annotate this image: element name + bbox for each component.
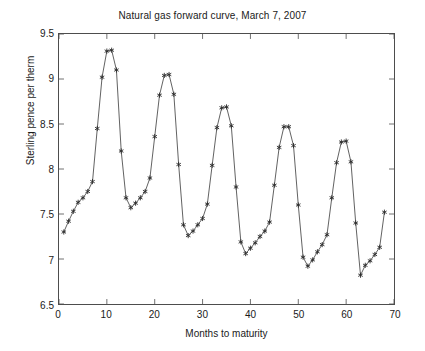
- y-tick-label: 9.5: [20, 28, 54, 39]
- chart-title: Natural gas forward curve, March 7, 2007: [0, 10, 425, 21]
- data-point-marker: [100, 75, 104, 80]
- data-point-marker: [234, 184, 238, 189]
- x-axis-tick-labels: 010203040506070: [58, 309, 395, 325]
- data-point-marker: [349, 159, 353, 164]
- y-tick-label: 7: [20, 254, 54, 265]
- data-point-marker: [71, 209, 75, 214]
- data-point-marker: [66, 219, 70, 224]
- x-tick-label: 60: [332, 309, 362, 320]
- x-tick-label: 0: [43, 309, 73, 320]
- data-point-marker: [229, 123, 233, 128]
- data-point-marker: [277, 145, 281, 150]
- y-tick-label: 8: [20, 164, 54, 175]
- y-tick-label: 7.5: [20, 209, 54, 220]
- data-point-marker: [330, 195, 334, 200]
- x-tick-label: 50: [284, 309, 314, 320]
- x-tick-label: 70: [380, 309, 410, 320]
- data-point-marker: [152, 134, 156, 139]
- x-tick-label: 20: [139, 309, 169, 320]
- y-tick-label: 8.5: [20, 118, 54, 129]
- x-tick-label: 10: [91, 309, 121, 320]
- data-point-marker: [157, 93, 161, 98]
- data-point-marker: [272, 183, 276, 188]
- x-tick-label: 30: [187, 309, 217, 320]
- x-tick-label: 40: [236, 309, 266, 320]
- data-point-marker: [114, 67, 118, 72]
- data-point-marker: [119, 148, 123, 153]
- plot-area: [58, 33, 395, 305]
- data-point-marker: [215, 125, 219, 130]
- data-point-marker: [172, 92, 176, 97]
- data-point-marker: [181, 222, 185, 227]
- data-point-marker: [291, 143, 295, 148]
- data-point-marker: [301, 255, 305, 260]
- data-point-marker: [358, 273, 362, 278]
- data-point-marker: [62, 229, 66, 234]
- axis-tick-marks: [59, 34, 394, 304]
- data-point-marker: [382, 210, 386, 215]
- data-point-marker: [124, 195, 128, 200]
- data-point-markers: [62, 48, 387, 278]
- data-series-svg: [59, 34, 394, 304]
- data-point-marker: [325, 232, 329, 237]
- data-point-marker: [334, 160, 338, 165]
- y-axis-tick-labels: 6.577.588.599.5: [18, 33, 54, 305]
- x-axis-label: Months to maturity: [58, 328, 395, 339]
- data-point-marker: [148, 175, 152, 180]
- y-tick-label: 9: [20, 73, 54, 84]
- data-point-marker: [296, 202, 300, 207]
- data-point-marker: [176, 162, 180, 167]
- data-point-marker: [95, 126, 99, 131]
- data-point-marker: [239, 239, 243, 244]
- data-point-marker: [267, 220, 271, 225]
- data-point-marker: [205, 202, 209, 207]
- data-point-marker: [353, 220, 357, 225]
- data-point-marker: [210, 163, 214, 168]
- chart-figure: Natural gas forward curve, March 7, 2007…: [0, 0, 425, 351]
- data-point-marker: [90, 179, 94, 184]
